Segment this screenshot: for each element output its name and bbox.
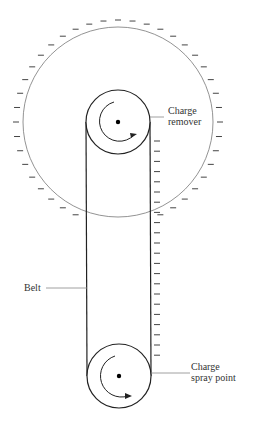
label-belt: Belt [24,282,41,293]
top-pulley [86,90,150,154]
label-charge-spray-point: Charge spray point [191,361,236,383]
bottom-pulley [87,344,151,408]
label-charge-remover: Charge remover [168,105,201,127]
leader-lines [46,117,190,373]
belt [86,122,151,376]
belt-negative-charges [154,141,160,355]
